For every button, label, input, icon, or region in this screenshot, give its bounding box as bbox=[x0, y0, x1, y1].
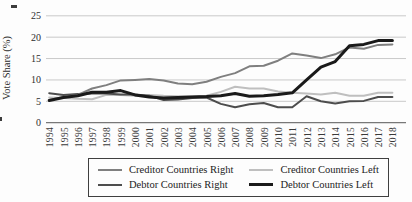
x-tick-label: 1999 bbox=[117, 127, 127, 147]
line-chart-plot: 0510152025199419951996199719981999200020… bbox=[0, 0, 412, 157]
legend-line-sample bbox=[98, 169, 122, 171]
x-tick-label: 2009 bbox=[260, 127, 270, 147]
legend-item: Debtor Countries Right bbox=[98, 177, 233, 192]
y-tick-label: 5 bbox=[36, 96, 41, 107]
legend-label: Debtor Countries Left bbox=[280, 179, 373, 190]
legend-line-sample bbox=[249, 169, 273, 171]
legend-item: Creditor Countries Left bbox=[249, 162, 379, 177]
legend-item: Creditor Countries Right bbox=[98, 162, 233, 177]
x-tick-label: 2002 bbox=[160, 127, 170, 147]
x-tick-label: 2015 bbox=[346, 127, 356, 147]
legend-line-sample bbox=[98, 184, 122, 186]
x-tick-label: 2008 bbox=[245, 127, 255, 147]
x-tick-label: 2017 bbox=[374, 127, 384, 147]
x-tick-label: 2003 bbox=[174, 127, 184, 147]
vote-share-line-chart-figure: 0510152025199419951996199719981999200020… bbox=[0, 0, 412, 202]
x-tick-label: 2006 bbox=[217, 127, 227, 147]
y-tick-label: 10 bbox=[31, 74, 41, 85]
chart-legend: Creditor Countries RightCreditor Countri… bbox=[88, 158, 389, 197]
x-tick-label: 1998 bbox=[102, 127, 112, 147]
legend-item: Debtor Countries Left bbox=[249, 177, 379, 192]
y-tick-label: 15 bbox=[31, 53, 41, 64]
x-tick-label: 2013 bbox=[317, 127, 327, 147]
x-tick-label: 2012 bbox=[303, 127, 313, 147]
x-tick-label: 2001 bbox=[145, 127, 155, 147]
legend-label: Debtor Countries Right bbox=[129, 179, 228, 190]
legend-line-sample bbox=[249, 183, 273, 186]
x-tick-label: 1996 bbox=[74, 127, 84, 147]
x-tick-label: 1995 bbox=[60, 127, 70, 147]
x-tick-label: 2016 bbox=[360, 127, 370, 147]
x-tick-label: 2007 bbox=[231, 127, 241, 147]
x-tick-label: 1997 bbox=[88, 127, 98, 147]
x-tick-label: 1994 bbox=[45, 127, 55, 147]
legend-label: Creditor Countries Left bbox=[280, 164, 379, 175]
y-tick-label: 20 bbox=[31, 32, 41, 43]
y-axis-title: Vote Share (%) bbox=[1, 36, 13, 100]
x-tick-label: 2004 bbox=[188, 127, 198, 147]
x-tick-label: 2014 bbox=[331, 127, 341, 147]
x-tick-label: 2018 bbox=[388, 127, 398, 147]
y-tick-label: 25 bbox=[31, 10, 41, 21]
x-tick-label: 2000 bbox=[131, 127, 141, 147]
x-tick-label: 2005 bbox=[203, 127, 213, 147]
legend-label: Creditor Countries Right bbox=[129, 164, 233, 175]
y-tick-label: 0 bbox=[36, 117, 41, 128]
x-tick-label: 2011 bbox=[288, 127, 298, 147]
x-tick-label: 2010 bbox=[274, 127, 284, 147]
